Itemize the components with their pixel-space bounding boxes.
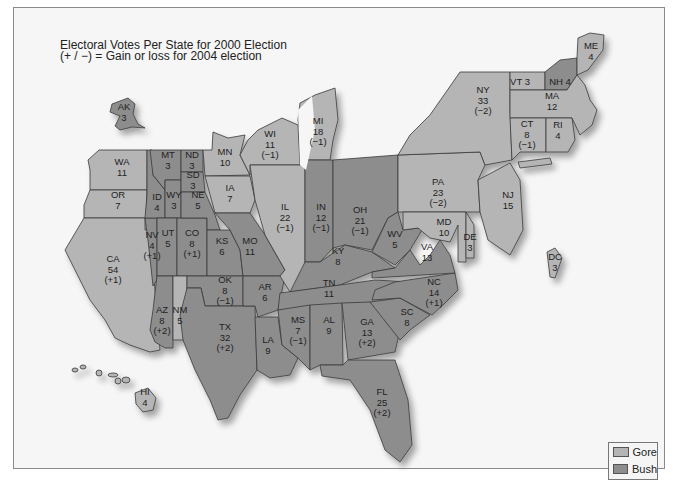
state-label-tn: TN11 [323, 277, 336, 299]
state-label-nj: NJ15 [502, 189, 514, 211]
legend: Gore Bush [608, 442, 658, 480]
state-label-nh: NH 4 [549, 76, 571, 87]
state-label-md: MD10 [437, 216, 452, 238]
legend-item-gore: Gore [613, 444, 657, 460]
legend-label-gore: Gore [633, 446, 657, 458]
legend-label-bush: Bush [632, 463, 657, 475]
state-TX [180, 288, 257, 420]
state-label-mn: MN10 [218, 146, 233, 168]
state-label-vt: VT 3 [510, 76, 530, 87]
state-NJ [478, 163, 523, 255]
legend-item-bush: Bush [613, 461, 657, 477]
title-line-2: (+ / −) = Gain or loss for 2004 election [60, 51, 287, 62]
state-FL [320, 360, 412, 462]
gore-swatch [613, 447, 629, 457]
electoral-map: AK3HI4WA11OR7CA54(+1)NV4(+1)ID4MT3WY3UT5… [0, 0, 673, 495]
state-NY [398, 72, 512, 165]
state-label-va: VA13 [421, 241, 434, 263]
map-title: Electoral Votes Per State for 2000 Elect… [60, 40, 287, 62]
state-longisland [518, 158, 552, 168]
bush-swatch [613, 464, 628, 474]
